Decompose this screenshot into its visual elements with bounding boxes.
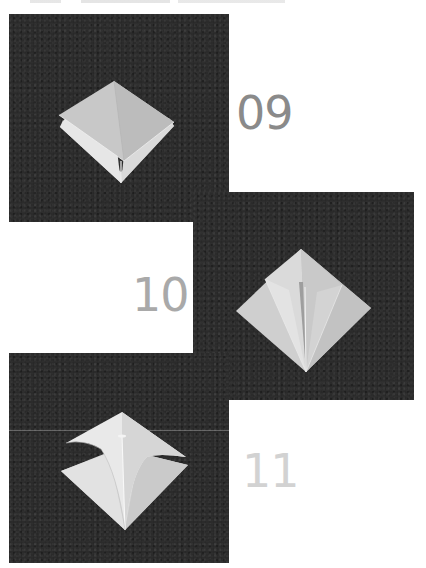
origami-square-base-illustration [9,14,229,222]
origami-flap-fold-illustration [9,353,229,563]
step-09-photo-panel [9,14,229,222]
step-11-photo-panel [9,353,229,563]
cropped-caption-strip [30,0,285,3]
step-number-09: 09 [236,90,293,136]
step-number-10: 10 [132,272,189,318]
step-number-11: 11 [242,448,299,494]
